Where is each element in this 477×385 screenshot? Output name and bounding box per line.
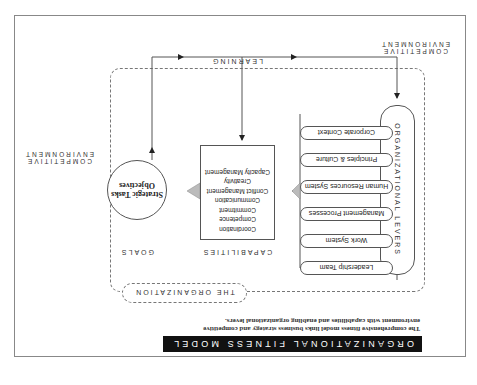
learning-label: LEARNING xyxy=(197,58,277,65)
capability-item: Capacity Management xyxy=(203,168,272,178)
lever-management-processes: Management Processes xyxy=(300,207,393,221)
capability-item: Communication xyxy=(203,196,272,206)
lever-corporate-context: Corporate Context xyxy=(300,126,393,140)
levers-heading-text: ORGANIZATIONAL LEVERS xyxy=(394,124,401,257)
capability-item: Competence xyxy=(203,215,272,225)
lever-leadership-team: Leadership Team xyxy=(300,261,393,275)
organization-label: THE ORGANIZATION xyxy=(122,283,247,303)
capability-item: Commitment xyxy=(203,206,272,216)
capabilities-heading: CAPABILITIES xyxy=(192,249,282,256)
lever-human-resources-system: Human Resources System xyxy=(300,180,393,194)
capability-item: Creativity xyxy=(203,177,272,187)
lever-work-system: Work System xyxy=(300,234,393,248)
goals-line2: Objectives xyxy=(119,181,155,190)
capability-item: Coordination xyxy=(203,225,272,235)
goals-circle: Strategic Tasks Objectives xyxy=(107,160,167,220)
goals-heading: GOALS xyxy=(102,249,172,256)
capability-item: Conflict Management xyxy=(203,187,272,197)
goals-line1: Strategic Tasks xyxy=(111,190,163,199)
diagram-canvas: ORGANIZATIONAL FITNESS MODEL The compreh… xyxy=(0,0,477,385)
lever-principles-culture: Principles & Culture xyxy=(300,153,393,167)
capabilities-box: Coordination Competence Commitment Commu… xyxy=(200,145,275,240)
